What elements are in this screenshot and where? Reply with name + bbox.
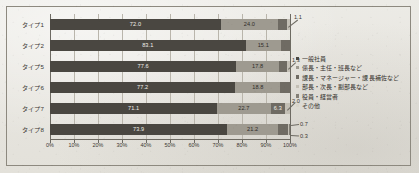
bar-segment: 21.2 [227,124,278,135]
gridline-20 [98,14,99,140]
legend-label: 一般社員 [302,56,326,62]
x-tick-mark [98,140,99,143]
segment-value: 6.3 [274,106,282,112]
bar-segment [279,61,287,72]
callout-leader-line [291,135,299,137]
gridline-60 [194,14,195,140]
segment-value: 24.0 [244,22,255,28]
x-tick-mark [50,140,51,143]
legend-item[interactable]: 係長・主任・班長など [296,65,414,71]
bar-segment [289,124,290,135]
legend-swatch-icon [296,94,299,97]
gridline-10 [74,14,75,140]
bar-segment: 22.7 [217,103,270,114]
segment-value: 72.0 [130,22,141,28]
x-tick-mark [146,140,147,143]
category-label: タイプ1 [22,21,44,27]
legend-swatch-icon [296,75,299,78]
gridline-80 [242,14,243,140]
segment-value: 22.7 [238,106,249,112]
bar-row: タイプ677.218.8 [50,82,290,93]
callout-value: 0.7 [300,122,308,128]
x-tick-label: 10% [69,143,80,148]
bar-row: タイプ771.122.76.3 [50,103,290,114]
gridline-50 [170,14,171,140]
gridline-90 [266,14,267,140]
bar-segment: 77.6 [50,61,236,72]
x-tick-mark [242,140,243,143]
segment-value: 15.1 [258,43,269,49]
x-tick-label: 40% [141,143,152,148]
figure-page: タイプ172.024.0タイプ283.115.1タイプ577.617.8タイプ6… [0,0,419,173]
gridline-40 [146,14,147,140]
bar-segment: 24.0 [221,19,278,30]
bar-segment [281,40,290,51]
legend-label: 係長・主任・班長など [302,65,363,71]
legend-item[interactable]: 一般社員 [296,56,414,62]
bar-segment: 73.9 [50,124,227,135]
x-tick-label: 0% [46,143,54,148]
x-tick-label: 90% [261,143,272,148]
category-label: タイプ8 [22,126,44,132]
chart-legend: 一般社員係長・主任・班長など課長・マネージャー・課長補佐など部長・次長・副部長な… [296,56,414,112]
x-axis-ticks: 0%10%20%30%40%50%60%70%80%90%100% [50,143,290,153]
category-label: タイプ6 [22,84,44,90]
x-tick-mark [290,140,291,143]
segment-value: 71.1 [128,106,139,112]
x-tick-label: 80% [237,143,248,148]
category-label: タイプ5 [22,63,44,69]
bar-segment: 17.8 [236,61,279,72]
legend-item[interactable]: 課長・マネージャー・課長補佐など [296,75,414,81]
x-tick-mark [194,140,195,143]
segment-value: 83.1 [142,43,153,49]
bar-segment [280,82,290,93]
bar-segment: 6.3 [271,103,286,114]
segment-value: 77.6 [137,64,148,70]
x-tick-mark [218,140,219,143]
bar-segment: 83.1 [50,40,246,51]
x-tick-label: 20% [93,143,104,148]
x-tick-label: 70% [213,143,224,148]
bar-row: タイプ283.115.1 [50,40,290,51]
legend-swatch-icon [296,57,299,60]
bar-row: タイプ172.024.0 [50,19,290,30]
gridline-100 [290,14,291,140]
legend-swatch-icon [296,85,299,88]
legend-item[interactable]: 役員・経営者 [296,94,414,100]
category-label: タイプ2 [22,42,44,48]
bar-segment: 72.0 [50,19,221,30]
x-tick-mark [266,140,267,143]
segment-value: 17.8 [252,64,263,70]
bar-segment: 77.2 [50,82,235,93]
category-label: タイプ7 [22,105,44,111]
legend-label: その他 [302,103,320,109]
bar-row: タイプ873.921.2 [50,124,290,135]
x-tick-label: 100% [283,143,297,148]
legend-item[interactable]: その他 [296,103,414,109]
legend-swatch-icon [296,66,299,69]
legend-label: 役員・経営者 [302,94,338,100]
legend-item[interactable]: 部長・次長・副部長など [296,84,414,90]
callout-value: 0.3 [300,134,308,140]
x-tick-label: 30% [117,143,128,148]
segment-value: 73.9 [133,127,144,133]
x-tick-mark [74,140,75,143]
bar-row: タイプ577.617.8 [50,61,290,72]
gridline-70 [218,14,219,140]
segment-value: 21.2 [247,127,258,133]
legend-label: 部長・次長・副部長など [302,84,369,90]
bar-segment [278,19,287,30]
bar-segment: 71.1 [50,103,217,114]
chart-plot-area: タイプ172.024.0タイプ283.115.1タイプ577.617.8タイプ6… [50,14,290,140]
bar-segment: 15.1 [246,40,282,51]
segment-value: 77.2 [137,85,148,91]
gridline-0 [50,14,51,140]
bar-segment [278,124,288,135]
x-tick-label: 60% [189,143,200,148]
legend-label: 課長・マネージャー・課長補佐など [302,75,399,81]
bar-segment: 18.8 [235,82,280,93]
segment-value: 18.8 [252,85,263,91]
x-tick-mark [170,140,171,143]
legend-swatch-icon [296,104,299,107]
gridline-30 [122,14,123,140]
